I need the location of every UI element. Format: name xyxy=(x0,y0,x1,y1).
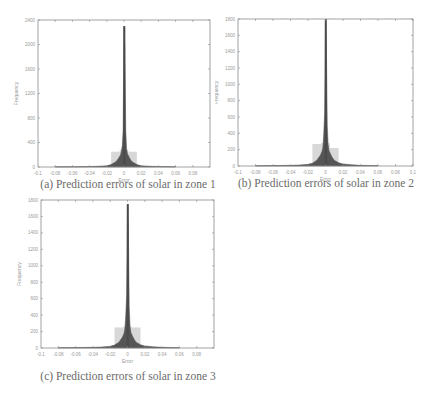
x-tick-label: 0 xyxy=(126,352,129,357)
x-tick-label: -0.1 xyxy=(234,170,242,175)
y-axis-label: Frequency xyxy=(215,80,219,104)
x-tick-label: -0.06 xyxy=(268,170,279,175)
y-tick-label: 0 xyxy=(32,165,35,170)
histogram-b: -0.08-0.06-0.04-0.0200.020.040.060.080.1… xyxy=(215,0,430,195)
y-tick-label: 200 xyxy=(227,147,235,152)
x-tick-label: -0.04 xyxy=(285,170,296,175)
y-tick-label: 1600 xyxy=(225,33,236,38)
x-tick-label: -0.06 xyxy=(67,171,78,176)
y-tick-label: 1200 xyxy=(28,247,39,252)
x-tick-label: 0.02 xyxy=(140,352,149,357)
y-tick-label: 400 xyxy=(227,131,235,136)
x-tick-label: 0.08 xyxy=(188,171,197,176)
caption-b: (b) Prediction errors of solar in zone 2 xyxy=(226,177,426,189)
x-tick-label: -0.02 xyxy=(105,352,116,357)
caption-a: (a) Prediction errors of solar in zone 1 xyxy=(28,178,228,190)
x-tick-label: 0 xyxy=(123,171,126,176)
y-tick-label: 0 xyxy=(35,346,38,351)
y-tick-label: 1200 xyxy=(25,91,36,96)
y-tick-label: 2000 xyxy=(25,42,36,47)
y-tick-label: 1200 xyxy=(225,66,236,71)
y-tick-label: 800 xyxy=(27,116,35,121)
y-tick-label: 200 xyxy=(30,329,38,334)
y-tick-label: 400 xyxy=(30,313,38,318)
y-tick-label: 400 xyxy=(27,140,35,145)
x-tick-label: 0.08 xyxy=(391,170,400,175)
histogram-bars xyxy=(58,204,179,348)
y-tick-label: 1800 xyxy=(28,198,39,203)
peak-bar xyxy=(325,19,327,166)
chart-panel-b: -0.08-0.06-0.04-0.0200.020.040.060.080.1… xyxy=(215,0,430,195)
x-tick-label: 0.1 xyxy=(410,170,417,175)
x-tick-label: -0.04 xyxy=(88,352,99,357)
x-tick-label: -0.1 xyxy=(37,352,45,357)
x-tick-label: -0.04 xyxy=(84,171,95,176)
histogram-c: -0.08-0.06-0.04-0.0200.020.040.060.08-0.… xyxy=(0,190,220,365)
histogram-bars xyxy=(55,26,175,167)
x-tick-label: 0.06 xyxy=(171,171,180,176)
y-tick-label: 1600 xyxy=(25,67,36,72)
y-axis-label: Frequency xyxy=(13,81,19,105)
y-tick-label: 1000 xyxy=(28,263,39,268)
caption-c: (c) Prediction errors of solar in zone 3 xyxy=(28,370,228,382)
histogram-a: -0.08-0.06-0.04-0.0200.020.040.060.08-0.… xyxy=(0,0,215,195)
x-axis-label: Error xyxy=(122,358,133,364)
chart-panel-c: -0.08-0.06-0.04-0.0200.020.040.060.08-0.… xyxy=(0,190,220,365)
y-tick-label: 1400 xyxy=(225,49,236,54)
x-tick-label: 0.02 xyxy=(137,171,146,176)
x-tick-label: -0.08 xyxy=(50,171,61,176)
x-tick-label: -0.08 xyxy=(250,170,261,175)
y-tick-label: 1800 xyxy=(225,17,236,22)
x-tick-label: -0.1 xyxy=(34,171,42,176)
y-tick-label: 600 xyxy=(30,296,38,301)
x-tick-label: 0.08 xyxy=(192,352,201,357)
x-tick-label: -0.02 xyxy=(303,170,314,175)
y-axis-label: Frequency xyxy=(16,262,22,286)
y-tick-label: 800 xyxy=(30,280,38,285)
x-tick-label: -0.02 xyxy=(102,171,113,176)
x-tick-label: 0.06 xyxy=(374,170,383,175)
y-tick-label: 0 xyxy=(232,164,235,169)
y-tick-label: 1000 xyxy=(225,82,236,87)
peak-bar xyxy=(123,26,125,167)
y-tick-label: 800 xyxy=(227,98,235,103)
x-tick-label: 0.06 xyxy=(175,352,184,357)
x-tick-label: 0 xyxy=(324,170,327,175)
chart-panel-a: -0.08-0.06-0.04-0.0200.020.040.060.08-0.… xyxy=(0,0,215,195)
y-tick-label: 600 xyxy=(227,115,235,120)
x-tick-label: -0.08 xyxy=(53,352,64,357)
x-tick-label: -0.06 xyxy=(70,352,81,357)
peak-bar xyxy=(127,204,129,348)
y-tick-label: 2400 xyxy=(25,18,36,23)
x-tick-label: 0.04 xyxy=(158,352,167,357)
x-tick-label: 0.04 xyxy=(356,170,365,175)
y-tick-label: 1400 xyxy=(28,230,39,235)
x-tick-label: 0.02 xyxy=(339,170,348,175)
y-tick-label: 1600 xyxy=(28,214,39,219)
x-tick-label: 0.04 xyxy=(154,171,163,176)
